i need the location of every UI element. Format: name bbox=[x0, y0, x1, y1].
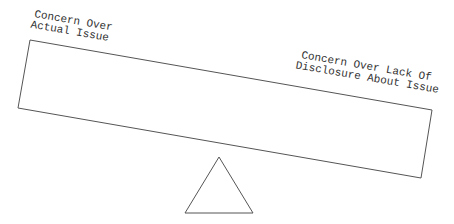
left-label: Concern Over Actual Issue bbox=[30, 8, 114, 44]
right-label: Concern Over Lack Of Disclosure About Is… bbox=[295, 48, 442, 95]
fulcrum-triangle bbox=[185, 157, 253, 213]
seesaw-diagram: Concern Over Actual Issue Concern Over L… bbox=[0, 0, 454, 224]
